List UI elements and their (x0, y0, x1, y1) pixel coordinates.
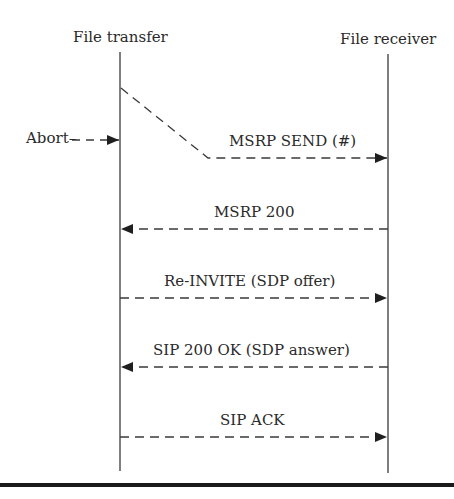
abort-label: Abort– (26, 131, 76, 146)
message-label-sip-200-ok: SIP 200 OK (SDP answer) (153, 343, 350, 358)
message-label-msrp-200: MSRP 200 (214, 205, 294, 220)
message-label-reinvite: Re-INVITE (SDP offer) (164, 274, 335, 289)
bottom-rule (0, 483, 454, 487)
participant-file-transfer: File transfer (73, 30, 168, 45)
abort-text: Abort (26, 129, 69, 147)
message-label-sip-ack: SIP ACK (220, 413, 285, 428)
message-label-msrp-send: MSRP SEND (#) (229, 134, 356, 149)
participant-file-receiver: File receiver (340, 32, 436, 47)
